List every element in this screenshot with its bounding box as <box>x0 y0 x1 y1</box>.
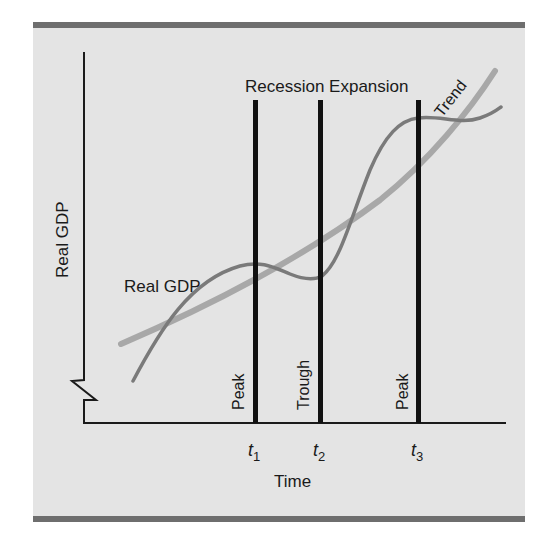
peak-2-label: Peak <box>394 373 411 410</box>
trough-line <box>318 100 323 423</box>
phase-label: Recession Expansion <box>245 77 408 96</box>
tick-t2: t2 <box>313 440 325 464</box>
business-cycle-diagram: Recession Expansion Real GDP Real GDP Tr… <box>0 0 556 550</box>
peak-1-label: Peak <box>230 373 247 410</box>
peak-2-line <box>416 100 421 423</box>
real-gdp-curve-label: Real GDP <box>124 277 201 296</box>
peak-1-line <box>253 100 258 423</box>
tick-t3: t3 <box>411 440 423 464</box>
tick-t2-sub: 2 <box>318 449 325 464</box>
y-axis-label: Real GDP <box>53 201 72 278</box>
tick-t1: t1 <box>248 440 260 464</box>
tick-t3-sub: 3 <box>416 449 423 464</box>
trough-label: Trough <box>295 360 312 410</box>
x-axis-label: Time <box>274 472 311 491</box>
tick-t1-sub: 1 <box>253 449 260 464</box>
